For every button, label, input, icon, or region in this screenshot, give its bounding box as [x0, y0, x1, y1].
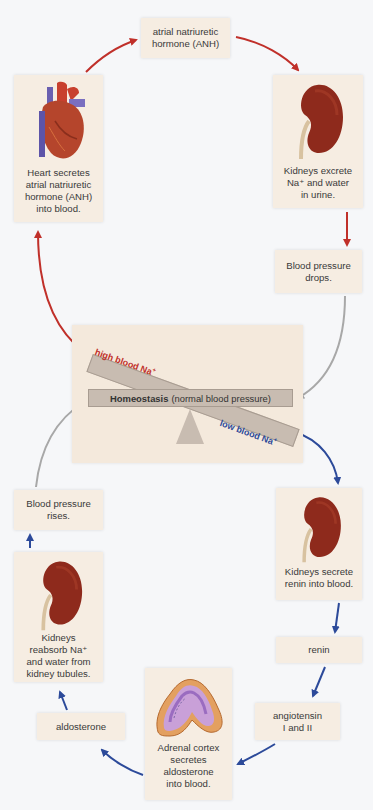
- angiotensin-box: angiotensin I and II: [255, 703, 340, 740]
- adrenal-caption: Adrenal cortex secretes aldosterone into…: [158, 742, 220, 790]
- kidney-excrete-caption: Kidneys excrete Na⁺ and water in urine.: [284, 165, 352, 201]
- renin-label: renin: [308, 644, 329, 656]
- bp-drops-label: Blood pressure drops.: [286, 260, 351, 284]
- bp-rises-box: Blood pressure rises.: [14, 490, 103, 530]
- arrow-aldosterone-to-kidney: [60, 692, 67, 710]
- arrow-renin-to-angiotensin: [313, 667, 325, 696]
- homeostasis-subtitle: (normal blood pressure): [171, 393, 271, 404]
- heart-icon: [29, 81, 89, 163]
- adrenal-gland-icon: [152, 674, 226, 738]
- fulcrum-icon: [176, 409, 204, 444]
- kidney-excrete-box: Kidneys excrete Na⁺ and water in urine.: [273, 75, 363, 208]
- anh-label: atrial natriuretic hormone (ANH): [152, 26, 219, 50]
- heart-box: Heart secretes atrial natriuretic hormon…: [14, 75, 103, 222]
- arrow-adrenal-to-aldosterone: [102, 750, 143, 775]
- kidney-icon: [291, 81, 345, 161]
- kidney-reabsorb-caption: Kidneys reabsorb Na⁺ and water from kidn…: [27, 632, 91, 680]
- homeostasis-title: Homeostasis: [110, 393, 168, 404]
- bp-rises-label: Blood pressure rises.: [26, 498, 91, 522]
- adrenal-box: Adrenal cortex secretes aldosterone into…: [145, 668, 232, 800]
- arrow-angiotensin-to-adrenal: [238, 744, 275, 764]
- arrow-bpdrops-to-homeostasis: [298, 296, 345, 398]
- kidney-renin-caption: Kidneys secrete renin into blood.: [285, 566, 353, 590]
- aldosterone-box: aldosterone: [37, 713, 125, 740]
- kidney-icon: [34, 558, 84, 632]
- homeostasis-panel: Homeostasis (normal blood pressure) high…: [72, 325, 303, 463]
- kidney-reabsorb-box: Kidneys reabsorb Na⁺ and water from kidn…: [14, 552, 103, 682]
- kidney-renin-box: Kidneys secrete renin into blood.: [276, 488, 362, 600]
- heart-caption: Heart secretes atrial natriuretic hormon…: [25, 167, 92, 215]
- anh-box: atrial natriuretic hormone (ANH): [141, 18, 230, 58]
- homeostasis-bar: Homeostasis (normal blood pressure): [88, 389, 293, 407]
- kidney-icon: [295, 494, 343, 564]
- bp-drops-box: Blood pressure drops.: [275, 250, 362, 293]
- arrow-heart-to-anh: [86, 40, 136, 72]
- renin-box: renin: [276, 637, 362, 663]
- aldosterone-label: aldosterone: [56, 721, 106, 733]
- arrow-anh-to-kidney: [236, 37, 298, 70]
- angiotensin-label: angiotensin I and II: [273, 710, 322, 734]
- arrow-kidney-to-renin: [335, 603, 339, 632]
